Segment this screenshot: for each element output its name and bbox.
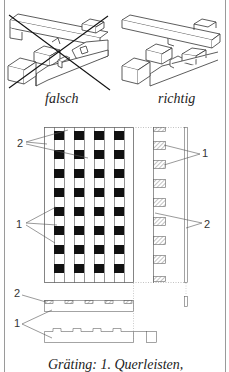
caption-richtig: richtig xyxy=(158,91,195,107)
section-view xyxy=(45,283,157,343)
label-2-right: 2 xyxy=(204,219,210,230)
label-2-section: 2 xyxy=(14,288,20,299)
side-view xyxy=(154,127,188,307)
label-1-left: 1 xyxy=(16,219,22,230)
caption-falsch: falsch xyxy=(45,91,78,107)
label-1-section: 1 xyxy=(14,318,20,329)
figure-caption: Gräting: 1. Querleisten, xyxy=(48,357,183,372)
label-1-right: 1 xyxy=(202,148,208,159)
grating-diagram xyxy=(0,0,229,372)
label-2-left: 2 xyxy=(17,138,23,149)
richtig-illustration xyxy=(122,15,220,86)
